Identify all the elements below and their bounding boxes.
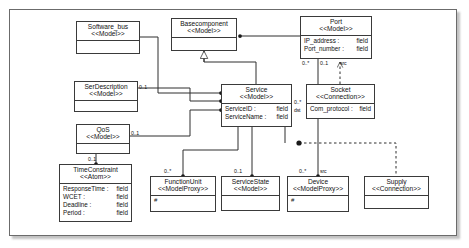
class-attributes: IP_address : field Port_number : field <box>301 36 371 54</box>
multiplicity-label: src <box>340 60 346 66</box>
multiplicity-label: 0..* <box>294 99 301 105</box>
attribute-key: IP_address : <box>304 37 343 45</box>
multiplicity-label: 0..* <box>302 60 309 66</box>
class-box-serdescription[interactable]: SerDescription <<Model>> <box>74 81 138 112</box>
multiplicity-label: 0..1 <box>320 60 328 66</box>
class-attributes <box>172 38 236 49</box>
class-box-basecomponent[interactable]: Basecomponent <<Model>> <box>171 18 237 51</box>
attribute-value: field <box>356 45 368 53</box>
class-attributes: ServiceID : field ServiceName : field <box>222 104 291 122</box>
class-name: QoS <box>79 126 127 133</box>
class-header: Port <<Model>> <box>301 17 371 35</box>
attribute-row: Com_protocol : field <box>310 105 371 113</box>
class-attributes: ResponseTime : field WCET : field Deadli… <box>60 184 131 219</box>
class-header: Software_bus <<Model>> <box>77 22 139 40</box>
class-box-port[interactable]: Port <<Model>> IP_address : field Port_n… <box>300 16 372 59</box>
attribute-row: WCET : field <box>63 193 128 201</box>
multiplicity-label: 0..1 <box>139 84 147 90</box>
class-stereotype: <<Model>> <box>77 90 135 97</box>
class-box-device[interactable]: Device <<ModelProxy>> # <box>287 176 349 212</box>
class-stereotype: <<Model>> <box>224 93 289 100</box>
class-stereotype: <<Connection>> <box>309 93 372 100</box>
class-header: Service <<Model>> <box>222 85 291 103</box>
attribute-key: Com_protocol : <box>310 105 357 113</box>
attribute-key: Port_number : <box>304 45 348 53</box>
class-name: ServiceState <box>224 178 277 185</box>
attribute-key: ServiceID : <box>225 105 260 113</box>
class-header: ServiceState <<Model>> <box>222 177 279 195</box>
class-header: Supply <<Connection>> <box>365 177 428 195</box>
attribute-key: WCET : <box>63 193 89 201</box>
attribute-row: Deadline : field <box>63 201 128 209</box>
class-name: Basecomponent <box>174 20 234 27</box>
class-name: TimeConstraint <box>62 166 129 173</box>
class-name: SerDescription <box>77 83 135 90</box>
diagram-canvas: Software_bus <<Model>> Basecomponent <<M… <box>0 0 469 248</box>
class-header: Basecomponent <<Model>> <box>172 19 236 37</box>
class-name: Socket <box>309 86 372 93</box>
attribute-value: field <box>356 37 368 45</box>
class-stereotype: <<Model>> <box>79 30 137 37</box>
multiplicity-label: src <box>320 168 326 174</box>
class-stereotype: <<Model>> <box>303 25 369 32</box>
attribute-value: field <box>276 113 288 121</box>
class-header: QoS <<Model>> <box>77 125 129 143</box>
class-stereotype: <<Connection>> <box>367 185 426 192</box>
attribute-value: field <box>116 201 128 209</box>
class-stereotype: <<ModelProxy>> <box>290 185 346 192</box>
attribute-key: Period : <box>63 209 89 217</box>
attribute-key: ResponseTime : <box>63 185 113 193</box>
class-name: Software_bus <box>79 23 137 30</box>
class-box-timeconstraint[interactable]: TimeConstraint <<Atom>> ResponseTime : f… <box>59 164 132 222</box>
class-name: Service <box>224 86 289 93</box>
class-attributes <box>75 101 137 112</box>
attribute-row: ServiceID : field <box>225 105 288 113</box>
attribute-key: Deadline : <box>63 201 95 209</box>
attribute-value: field <box>276 105 288 113</box>
visibility-marker: # <box>288 196 348 205</box>
class-box-service[interactable]: Service <<Model>> ServiceID : field Serv… <box>221 84 292 127</box>
attribute-row: Period : field <box>63 209 128 217</box>
attribute-row: Port_number : field <box>304 45 368 53</box>
class-name: FunctionUnit <box>153 178 213 185</box>
class-attributes: Com_protocol : field <box>307 104 374 114</box>
multiplicity-label: 0..1 <box>234 168 242 174</box>
class-attributes <box>222 196 279 207</box>
class-box-functionunit[interactable]: FunctionUnit <<ModelProxy>> # <box>150 176 216 212</box>
attribute-row: ServiceName : field <box>225 113 288 121</box>
attribute-row: ResponseTime : field <box>63 185 128 193</box>
multiplicity-label: 0..* <box>164 168 171 174</box>
class-stereotype: <<Atom>> <box>62 173 129 180</box>
class-header: FunctionUnit <<ModelProxy>> <box>151 177 215 195</box>
class-attributes <box>365 196 428 207</box>
class-box-software-bus[interactable]: Software_bus <<Model>> <box>76 21 140 54</box>
class-header: Device <<ModelProxy>> <box>288 177 348 195</box>
class-box-socket[interactable]: Socket <<Connection>> Com_protocol : fie… <box>306 84 375 119</box>
attribute-row: IP_address : field <box>304 37 368 45</box>
class-attributes <box>77 41 139 52</box>
class-name: Supply <box>367 178 426 185</box>
attribute-value: field <box>116 209 128 217</box>
class-header: Socket <<Connection>> <box>307 85 374 103</box>
class-header: TimeConstraint <<Atom>> <box>60 165 131 183</box>
class-header: SerDescription <<Model>> <box>75 82 137 100</box>
class-stereotype: <<ModelProxy>> <box>153 185 213 192</box>
attribute-value: field <box>116 193 128 201</box>
attribute-key: ServiceName : <box>225 113 270 121</box>
class-name: Device <box>290 178 346 185</box>
class-name: Port <box>303 18 369 25</box>
multiplicity-label: 0..1 <box>88 156 96 162</box>
multiplicity-label: 0..* <box>299 168 306 174</box>
class-stereotype: <<Model>> <box>174 27 234 34</box>
class-attributes <box>77 144 129 155</box>
class-stereotype: <<Model>> <box>224 185 277 192</box>
class-box-supply[interactable]: Supply <<Connection>> <box>364 176 429 209</box>
attribute-value: field <box>116 185 128 193</box>
visibility-marker: # <box>151 196 215 205</box>
multiplicity-label: dst <box>294 107 300 113</box>
class-stereotype: <<Model>> <box>79 133 127 140</box>
class-box-servicestate[interactable]: ServiceState <<Model>> <box>221 176 280 211</box>
attribute-value: field <box>359 105 371 113</box>
multiplicity-label: 0..1 <box>131 130 139 136</box>
class-box-qos[interactable]: QoS <<Model>> <box>76 124 130 154</box>
